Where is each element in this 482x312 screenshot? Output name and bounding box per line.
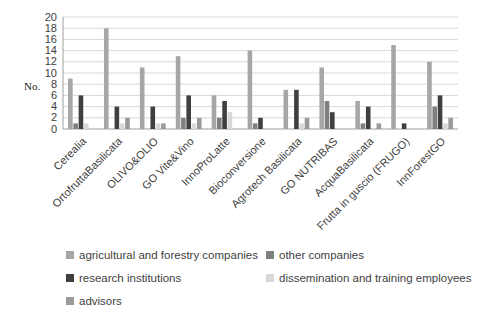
legend-label: advisors	[79, 295, 122, 307]
bar	[432, 107, 437, 129]
y-axis-tick: 4	[51, 100, 57, 112]
bar	[330, 112, 335, 129]
bar	[258, 118, 263, 129]
bar	[228, 112, 233, 129]
bar	[366, 107, 371, 129]
bar	[377, 123, 382, 129]
bar	[125, 118, 130, 129]
bar	[355, 101, 360, 129]
bar	[248, 51, 253, 129]
legend-item-0: agricultural and forestry companies	[66, 249, 266, 261]
bar	[427, 62, 432, 129]
bar	[79, 95, 84, 129]
y-axis-tick: 20	[45, 11, 57, 23]
bar	[212, 95, 217, 129]
bar	[443, 123, 448, 129]
y-axis-title: No.	[24, 80, 40, 92]
bar	[402, 123, 407, 129]
legend-item-2: research institutions	[66, 272, 266, 284]
bar	[140, 67, 145, 129]
y-axis-tick: 18	[45, 22, 57, 34]
bar	[115, 107, 120, 129]
y-axis-tick: 2	[51, 111, 57, 123]
bar	[305, 118, 310, 129]
legend-label: research institutions	[79, 272, 181, 284]
bar	[284, 90, 289, 129]
y-axis-tick: 6	[51, 89, 57, 101]
bar	[253, 123, 258, 129]
y-axis-tick: 16	[45, 33, 57, 45]
y-axis-tick: 10	[45, 67, 57, 79]
bar	[325, 101, 330, 129]
legend-label: dissemination and training employees	[279, 272, 471, 284]
bar	[197, 118, 202, 129]
legend-swatch-icon	[66, 251, 74, 259]
bar-chart-figure: 02468101214161820CerealiaOrtofruttaBasil…	[0, 0, 482, 312]
y-axis-tick: 12	[45, 55, 57, 67]
legend-label: other companies	[279, 249, 364, 261]
bar	[156, 123, 161, 129]
legend-swatch-icon	[266, 274, 274, 282]
bar	[176, 56, 181, 129]
bar	[438, 95, 443, 129]
bar	[192, 123, 197, 129]
y-axis-tick: 14	[45, 44, 57, 56]
bar	[217, 118, 222, 129]
y-axis-tick: 0	[51, 123, 57, 135]
legend-swatch-icon	[66, 274, 74, 282]
bar	[319, 67, 324, 129]
bar	[120, 123, 125, 129]
legend-item-1: other companies	[266, 249, 471, 261]
legend-item-4: advisors	[66, 295, 266, 307]
bar-chart-plot: 02468101214161820CerealiaOrtofruttaBasil…	[0, 0, 482, 240]
bar	[161, 123, 166, 129]
y-axis-tick: 8	[51, 78, 57, 90]
bar	[361, 123, 366, 129]
bar	[299, 123, 304, 129]
bar	[448, 118, 453, 129]
bar	[222, 101, 227, 129]
legend-item-3: dissemination and training employees	[266, 272, 471, 284]
legend-swatch-icon	[266, 251, 274, 259]
legend-swatch-icon	[66, 297, 74, 305]
bar	[391, 45, 396, 129]
bar	[104, 28, 109, 129]
legend-label: agricultural and forestry companies	[79, 249, 258, 261]
bar	[84, 123, 89, 129]
bar	[186, 95, 191, 129]
chart-legend: agricultural and forestry companiesother…	[66, 243, 471, 312]
bar	[150, 107, 155, 129]
bar	[68, 79, 73, 129]
bar	[181, 118, 186, 129]
bar	[294, 90, 299, 129]
bar	[73, 123, 78, 129]
